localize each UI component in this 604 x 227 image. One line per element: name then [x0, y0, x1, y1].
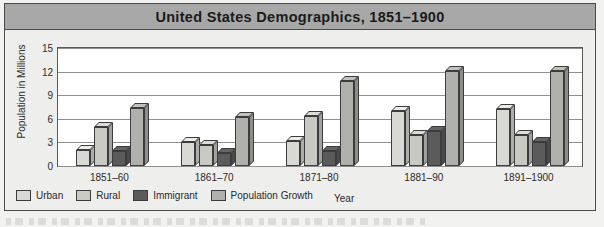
- bar-front-face: [427, 131, 441, 166]
- cropped-footer-text: [6, 218, 426, 225]
- bar-population-growth[interactable]: [340, 81, 354, 166]
- x-tick-label: 1891–1900: [504, 172, 554, 183]
- bar-rural[interactable]: [199, 145, 213, 166]
- bar-front-face: [112, 151, 126, 166]
- bar-immigrant[interactable]: [217, 153, 231, 166]
- legend-swatch: [76, 190, 91, 201]
- bar-rural[interactable]: [94, 127, 108, 166]
- page-title: United States Demographics, 1851–1900: [155, 9, 444, 25]
- legend-item-population-growth[interactable]: Population Growth: [211, 190, 313, 201]
- bar-front-face: [304, 116, 318, 166]
- plot-area: 03691215: [57, 47, 583, 167]
- bar-group: [163, 48, 268, 166]
- bar-rural[interactable]: [304, 116, 318, 166]
- chart-figure: United States Demographics, 1851–1900 Po…: [0, 0, 604, 227]
- bar-front-face: [181, 142, 195, 166]
- bar-front-face: [532, 142, 546, 166]
- bar-front-face: [217, 153, 231, 166]
- x-tick-label: 1861–70: [195, 172, 234, 183]
- chart-title-band: United States Demographics, 1851–1900: [4, 3, 596, 30]
- bar-group: [58, 48, 163, 166]
- bar-group: [477, 48, 582, 166]
- bar-front-face: [235, 117, 249, 166]
- bar-front-face: [514, 135, 528, 166]
- bar-side-face: [459, 66, 464, 166]
- bar-front-face: [550, 71, 564, 166]
- y-tick-label: 0: [47, 161, 53, 172]
- legend-item-rural[interactable]: Rural: [76, 190, 120, 201]
- bar-side-face: [249, 112, 254, 166]
- bar-side-face: [144, 103, 149, 166]
- x-tick-label: 1851–60: [90, 172, 129, 183]
- bar-rural[interactable]: [514, 135, 528, 166]
- bar-urban[interactable]: [496, 109, 510, 166]
- bar-side-face: [564, 66, 569, 166]
- chart-body: Population in Millions 03691215 1851–601…: [4, 30, 596, 211]
- bar-front-face: [496, 109, 510, 166]
- legend-swatch: [133, 190, 148, 201]
- bar-front-face: [445, 71, 459, 166]
- x-axis-title: Year: [334, 193, 354, 204]
- bar-immigrant[interactable]: [112, 151, 126, 166]
- bar-immigrant[interactable]: [532, 142, 546, 166]
- bar-group: [268, 48, 373, 166]
- bar-urban[interactable]: [76, 150, 90, 166]
- bar-urban[interactable]: [286, 141, 300, 166]
- gridline-0: 0: [58, 166, 582, 167]
- bar-side-face: [354, 76, 359, 166]
- legend-item-immigrant[interactable]: Immigrant: [133, 190, 197, 201]
- x-tick-label: 1881–90: [404, 172, 443, 183]
- bar-rural[interactable]: [409, 135, 423, 166]
- bar-front-face: [391, 111, 405, 166]
- bar-front-face: [76, 150, 90, 166]
- bar-population-growth[interactable]: [235, 117, 249, 166]
- legend-label: Immigrant: [153, 190, 197, 201]
- bar-front-face: [94, 127, 108, 166]
- legend-swatch: [16, 190, 31, 201]
- bar-urban[interactable]: [181, 142, 195, 166]
- chart-legend: UrbanRuralImmigrantPopulation Growth: [16, 190, 326, 201]
- y-tick-label: 12: [42, 66, 53, 77]
- y-axis-title: Population in Millions: [16, 32, 27, 152]
- bar-population-growth[interactable]: [445, 71, 459, 166]
- legend-label: Urban: [36, 190, 63, 201]
- legend-label: Rural: [96, 190, 120, 201]
- y-tick-label: 9: [47, 90, 53, 101]
- bar-front-face: [199, 145, 213, 166]
- bar-series-container: [58, 48, 582, 166]
- bar-front-face: [130, 108, 144, 166]
- y-tick-label: 15: [42, 43, 53, 54]
- legend-swatch: [211, 190, 226, 201]
- legend-label: Population Growth: [231, 190, 313, 201]
- bar-front-face: [322, 151, 336, 166]
- bar-immigrant[interactable]: [322, 151, 336, 166]
- y-tick-label: 3: [47, 137, 53, 148]
- bar-urban[interactable]: [391, 111, 405, 166]
- y-tick-label: 6: [47, 113, 53, 124]
- legend-item-urban[interactable]: Urban: [16, 190, 63, 201]
- bar-front-face: [286, 141, 300, 166]
- bar-group: [372, 48, 477, 166]
- bar-population-growth[interactable]: [130, 108, 144, 166]
- bar-front-face: [409, 135, 423, 166]
- bar-immigrant[interactable]: [427, 131, 441, 166]
- bar-population-growth[interactable]: [550, 71, 564, 166]
- bar-front-face: [340, 81, 354, 166]
- x-tick-label: 1871–80: [300, 172, 339, 183]
